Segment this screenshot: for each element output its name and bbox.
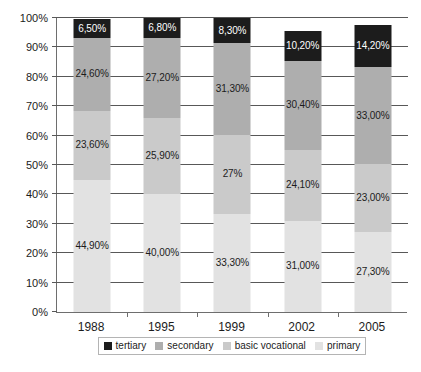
bar-segment-label: 40,00% bbox=[146, 248, 179, 258]
bar-segment-label: 8,30% bbox=[219, 26, 247, 36]
bar-slot: 40,00%25,90%27,20%6,80% bbox=[127, 18, 197, 312]
legend-swatch-icon bbox=[104, 342, 112, 350]
bar-segment-label: 10,20% bbox=[286, 41, 319, 51]
legend-item-secondary[interactable]: secondary bbox=[155, 341, 213, 351]
legend-item-basic-vocational[interactable]: basic vocational bbox=[223, 341, 306, 351]
y-axis-tick-label: 60% bbox=[0, 131, 48, 142]
x-axis-label-1999: 1999 bbox=[218, 320, 245, 334]
y-axis-tick-label: 70% bbox=[0, 101, 48, 112]
legend-label: secondary bbox=[167, 341, 213, 351]
legend-item-primary[interactable]: primary bbox=[315, 341, 360, 351]
legend-label: basic vocational bbox=[235, 341, 306, 351]
bar-slot: 31,00%24,10%30,40%10,20% bbox=[268, 18, 338, 312]
bar-segment-label: 27,20% bbox=[146, 73, 179, 83]
x-axis-tick bbox=[338, 312, 339, 317]
y-axis-tick-label: 30% bbox=[0, 219, 48, 230]
x-axis-labels: 19881995199920022005 bbox=[56, 320, 407, 336]
bar-segment-label: 31,00% bbox=[286, 261, 319, 271]
legend-label: tertiary bbox=[116, 341, 147, 351]
bar-slot: 33,30%27%31,30%8,30% bbox=[197, 18, 267, 312]
bar-segment-label: 31,30% bbox=[216, 84, 249, 94]
bar-slot: 44,90%23,60%24,60%6,50% bbox=[57, 18, 127, 312]
bar-segment-label: 6,80% bbox=[148, 23, 176, 33]
bar-segment-label: 27% bbox=[223, 169, 243, 179]
y-axis-tick-label: 40% bbox=[0, 189, 48, 200]
y-axis-tick-label: 10% bbox=[0, 278, 48, 289]
bar-segment-label: 14,20% bbox=[356, 41, 389, 51]
bar-segment-label: 30,40% bbox=[286, 100, 319, 110]
y-axis-tick-label: 0% bbox=[0, 307, 48, 318]
bar-segment-label: 25,90% bbox=[146, 151, 179, 161]
bar-segment-label: 23,60% bbox=[75, 140, 108, 150]
x-axis-tick bbox=[127, 312, 128, 317]
stacked-bar[interactable]: 31,00%24,10%30,40%10,20% bbox=[284, 18, 321, 312]
chart-legend: tertiarysecondarybasic vocationalprimary bbox=[98, 337, 366, 355]
legend-item-tertiary[interactable]: tertiary bbox=[104, 341, 147, 351]
y-axis-tick-label: 100% bbox=[0, 13, 48, 24]
y-axis-tick-label: 90% bbox=[0, 42, 48, 53]
bar-segment-label: 33,00% bbox=[356, 111, 389, 121]
bar-segment-label: 23,00% bbox=[356, 193, 389, 203]
bar-segment-label: 24,60% bbox=[75, 69, 108, 79]
legend-label: primary bbox=[327, 341, 360, 351]
legend-swatch-icon bbox=[155, 342, 163, 350]
stacked-bar[interactable]: 40,00%25,90%27,20%6,80% bbox=[144, 18, 181, 312]
legend-swatch-icon bbox=[223, 342, 231, 350]
stacked-bar-chart: 0%10%20%30%40%50%60%70%80%90%100% 44,90%… bbox=[0, 0, 421, 372]
bar-segment-label: 33,30% bbox=[216, 258, 249, 268]
y-axis-tick-label: 80% bbox=[0, 72, 48, 83]
x-axis-label-2002: 2002 bbox=[288, 320, 315, 334]
bar-segment-label: 44,90% bbox=[75, 241, 108, 251]
bar-segment-label: 6,50% bbox=[78, 24, 106, 34]
bar-segment-label: 24,10% bbox=[286, 180, 319, 190]
stacked-bar[interactable]: 33,30%27%31,30%8,30% bbox=[214, 18, 251, 312]
stacked-bar[interactable]: 27,30%23,00%33,00%14,20% bbox=[354, 18, 391, 312]
x-axis-label-1995: 1995 bbox=[148, 320, 175, 334]
stacked-bar[interactable]: 44,90%23,60%24,60%6,50% bbox=[74, 18, 111, 312]
x-axis-label-2005: 2005 bbox=[359, 320, 386, 334]
y-axis-tick-label: 50% bbox=[0, 160, 48, 171]
x-axis-tick bbox=[197, 312, 198, 317]
bar-slot: 27,30%23,00%33,00%14,20% bbox=[338, 18, 408, 312]
legend-swatch-icon bbox=[315, 342, 323, 350]
plot-area: 44,90%23,60%24,60%6,50%40,00%25,90%27,20… bbox=[56, 18, 407, 313]
bar-segment-label: 27,30% bbox=[356, 267, 389, 277]
x-axis-tick bbox=[268, 312, 269, 317]
x-axis-label-1988: 1988 bbox=[78, 320, 105, 334]
y-axis-tick-label: 20% bbox=[0, 248, 48, 259]
